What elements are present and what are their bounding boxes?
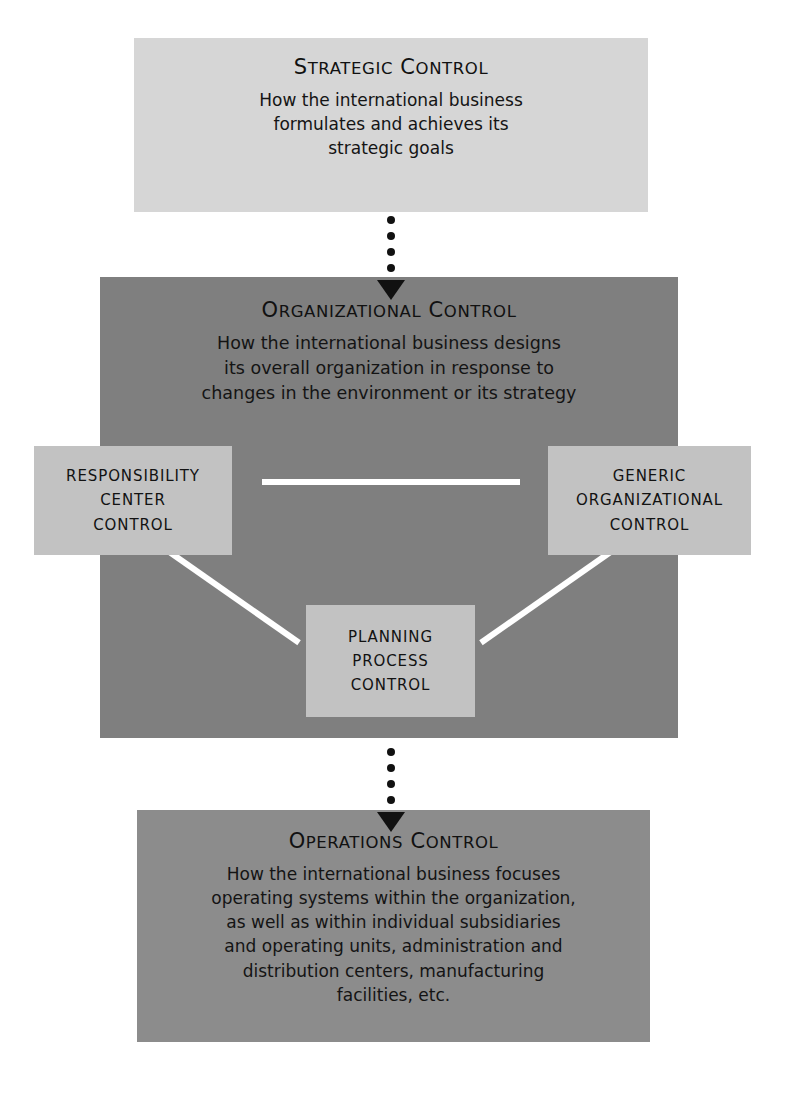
heading-small-caps-2: ONTROL	[426, 833, 499, 852]
strategic-control-heading: STRATEGIC CONTROL	[134, 56, 648, 79]
generic-organizational-control-box: GENERIC ORGANIZATIONAL CONTROL	[548, 446, 751, 555]
control-levels-diagram: STRATEGIC CONTROL How the international …	[0, 0, 786, 1113]
arrow-dot	[387, 764, 395, 772]
strategic-control-box: STRATEGIC CONTROL How the international …	[134, 38, 648, 212]
operations-control-line-2: operating systems within the organizatio…	[137, 886, 650, 910]
operations-control-line-3: as well as within individual subsidiarie…	[137, 910, 650, 934]
planning-process-control-box: PLANNING PROCESS CONTROL	[306, 605, 475, 717]
strategic-control-line-1: How the international business	[134, 88, 648, 112]
operations-control-box: OPERATIONS CONTROL How the international…	[137, 810, 650, 1042]
operations-control-line-6: facilities, etc.	[137, 983, 650, 1007]
responsibility-center-control-box: RESPONSIBILITY CENTER CONTROL	[34, 446, 232, 555]
heading-initial-cap: O	[262, 298, 279, 322]
arrow-organizational-to-operations-icon	[376, 748, 406, 832]
strategic-control-line-3: strategic goals	[134, 136, 648, 160]
arrow-dot	[387, 232, 395, 240]
generic-line-3: CONTROL	[610, 513, 690, 537]
heading-small-caps-2: ONTROL	[444, 302, 517, 321]
arrow-dot	[387, 780, 395, 788]
planning-line-2: PROCESS	[352, 649, 429, 673]
heading-initial-cap-2: C	[400, 55, 415, 79]
heading-small-caps: RGANIZATIONAL	[279, 302, 422, 321]
heading-initial-cap-2: C	[410, 829, 425, 853]
heading-initial-cap-2: C	[429, 298, 444, 322]
organizational-control-heading: ORGANIZATIONAL CONTROL	[100, 299, 678, 322]
generic-line-2: ORGANIZATIONAL	[576, 488, 723, 512]
arrow-strategic-to-organizational-icon	[376, 216, 406, 300]
organizational-control-line-2: its overall organization in response to	[100, 356, 678, 381]
responsibility-line-2: CENTER	[100, 488, 166, 512]
generic-line-1: GENERIC	[613, 464, 686, 488]
responsibility-line-1: RESPONSIBILITY	[66, 464, 200, 488]
heading-initial-cap: O	[289, 829, 306, 853]
arrow-head-icon	[377, 280, 405, 300]
heading-small-caps: PERATIONS	[306, 833, 403, 852]
arrow-dot	[387, 796, 395, 804]
responsibility-line-3: CONTROL	[93, 513, 173, 537]
arrow-dot	[387, 248, 395, 256]
operations-control-line-1: How the international business focuses	[137, 862, 650, 886]
planning-line-1: PLANNING	[348, 625, 433, 649]
operations-control-line-4: and operating units, administration and	[137, 934, 650, 958]
arrow-dot	[387, 264, 395, 272]
heading-initial-cap: S	[294, 55, 308, 79]
organizational-control-line-3: changes in the environment or its strate…	[100, 381, 678, 406]
arrow-dot	[387, 216, 395, 224]
operations-control-line-5: distribution centers, manufacturing	[137, 959, 650, 983]
organizational-control-line-1: How the international business designs	[100, 331, 678, 356]
arrow-dot	[387, 748, 395, 756]
planning-line-3: CONTROL	[351, 673, 431, 697]
heading-small-caps-2: ONTROL	[416, 59, 489, 78]
heading-small-caps: TRATEGIC	[308, 59, 393, 78]
strategic-control-line-2: formulates and achieves its	[134, 112, 648, 136]
arrow-head-icon	[377, 812, 405, 832]
connector-responsibility-to-generic	[262, 479, 520, 485]
operations-control-heading: OPERATIONS CONTROL	[137, 830, 650, 853]
